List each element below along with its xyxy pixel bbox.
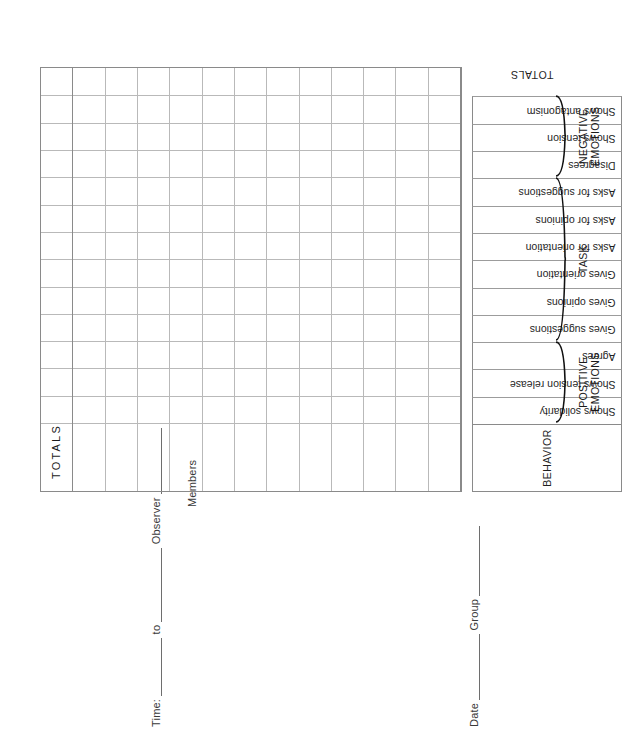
tally-cell[interactable] (235, 123, 266, 150)
tally-cell[interactable] (364, 396, 395, 423)
tally-cell[interactable] (332, 95, 363, 122)
tally-cell[interactable] (170, 150, 201, 177)
tally-cell[interactable] (300, 259, 331, 286)
tally-cell[interactable] (396, 259, 427, 286)
tally-cell[interactable] (41, 205, 72, 232)
tally-cell[interactable] (396, 177, 427, 204)
tally-cell[interactable] (203, 95, 234, 122)
tally-cell[interactable] (138, 123, 169, 150)
tally-cell[interactable] (332, 177, 363, 204)
tally-cell[interactable] (138, 396, 169, 423)
tally-cell[interactable] (332, 341, 363, 368)
totals-cell[interactable] (41, 68, 72, 95)
member-name-cell[interactable] (138, 423, 169, 491)
tally-cell[interactable] (170, 205, 201, 232)
totals-cell[interactable] (170, 68, 201, 95)
tally-cell[interactable] (429, 95, 460, 122)
tally-cell[interactable] (73, 177, 104, 204)
tally-cell[interactable] (235, 259, 266, 286)
tally-cell[interactable] (300, 396, 331, 423)
tally-cell[interactable] (41, 259, 72, 286)
tally-cell[interactable] (396, 314, 427, 341)
member-name-cell[interactable] (364, 423, 395, 491)
tally-cell[interactable] (106, 314, 137, 341)
tally-cell[interactable] (138, 150, 169, 177)
tally-cell[interactable] (235, 314, 266, 341)
tally-cell[interactable] (138, 368, 169, 395)
tally-cell[interactable] (429, 232, 460, 259)
time-start-blank[interactable] (152, 638, 162, 696)
tally-cell[interactable] (170, 314, 201, 341)
date-blank[interactable] (470, 634, 480, 700)
tally-cell[interactable] (364, 205, 395, 232)
tally-cell[interactable] (203, 123, 234, 150)
tally-cell[interactable] (429, 314, 460, 341)
tally-cell[interactable] (332, 259, 363, 286)
tally-cell[interactable] (41, 396, 72, 423)
totals-cell[interactable] (396, 68, 427, 95)
tally-cell[interactable] (235, 95, 266, 122)
tally-cell[interactable] (364, 287, 395, 314)
tally-cell[interactable] (203, 314, 234, 341)
tally-cell[interactable] (106, 259, 137, 286)
tally-cell[interactable] (364, 177, 395, 204)
tally-cell[interactable] (138, 314, 169, 341)
group-blank[interactable] (470, 526, 480, 596)
tally-cell[interactable] (203, 150, 234, 177)
tally-cell[interactable] (429, 287, 460, 314)
tally-cell[interactable] (364, 341, 395, 368)
tally-cell[interactable] (106, 287, 137, 314)
tally-cell[interactable] (396, 150, 427, 177)
tally-cell[interactable] (300, 123, 331, 150)
totals-cell[interactable] (429, 68, 460, 95)
tally-cell[interactable] (73, 314, 104, 341)
tally-cell[interactable] (235, 368, 266, 395)
tally-cell[interactable] (396, 232, 427, 259)
tally-cell[interactable] (429, 396, 460, 423)
totals-cell[interactable] (267, 68, 298, 95)
tally-cell[interactable] (73, 95, 104, 122)
tally-cell[interactable] (396, 341, 427, 368)
tally-cell[interactable] (267, 205, 298, 232)
totals-cell[interactable] (364, 68, 395, 95)
tally-cell[interactable] (300, 314, 331, 341)
tally-cell[interactable] (138, 95, 169, 122)
tally-cell[interactable] (332, 150, 363, 177)
tally-cell[interactable] (41, 232, 72, 259)
member-name-cell[interactable] (73, 423, 104, 491)
tally-cell[interactable] (203, 205, 234, 232)
tally-cell[interactable] (41, 341, 72, 368)
tally-cell[interactable] (429, 150, 460, 177)
tally-cell[interactable] (300, 287, 331, 314)
member-name-cell[interactable] (267, 423, 298, 491)
tally-cell[interactable] (235, 232, 266, 259)
tally-cell[interactable] (138, 287, 169, 314)
tally-cell[interactable] (267, 314, 298, 341)
tally-cell[interactable] (300, 95, 331, 122)
tally-cell[interactable] (300, 150, 331, 177)
tally-cell[interactable] (73, 287, 104, 314)
tally-cell[interactable] (396, 396, 427, 423)
tally-cell[interactable] (203, 232, 234, 259)
tally-cell[interactable] (332, 287, 363, 314)
tally-cell[interactable] (267, 368, 298, 395)
tally-cell[interactable] (106, 232, 137, 259)
tally-cell[interactable] (332, 232, 363, 259)
tally-cell[interactable] (41, 314, 72, 341)
tally-cell[interactable] (267, 341, 298, 368)
tally-cell[interactable] (364, 95, 395, 122)
tally-cell[interactable] (235, 150, 266, 177)
tally-cell[interactable] (73, 150, 104, 177)
tally-cell[interactable] (364, 314, 395, 341)
tally-cell[interactable] (203, 287, 234, 314)
tally-cell[interactable] (203, 259, 234, 286)
tally-cell[interactable] (203, 341, 234, 368)
tally-cell[interactable] (364, 232, 395, 259)
tally-cell[interactable] (73, 259, 104, 286)
tally-cell[interactable] (300, 341, 331, 368)
tally-cell[interactable] (41, 150, 72, 177)
tally-cell[interactable] (138, 232, 169, 259)
tally-cell[interactable] (267, 232, 298, 259)
tally-cell[interactable] (429, 205, 460, 232)
tally-cell[interactable] (235, 341, 266, 368)
